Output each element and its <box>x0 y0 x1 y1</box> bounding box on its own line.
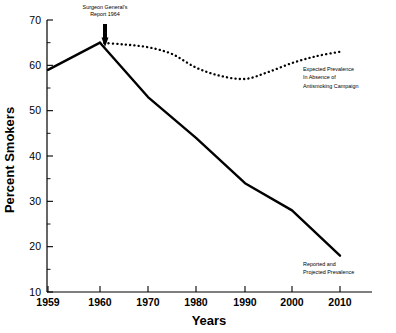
y-tick-label-30: 30 <box>29 195 41 207</box>
chart-container: 10203040506070 1959196019701980199020002… <box>0 0 396 333</box>
y-tick-label-40: 40 <box>29 150 41 162</box>
y-tick-label-50: 50 <box>29 104 41 116</box>
y-tick-label-60: 60 <box>29 59 41 71</box>
annotation-line: Antismoking Campaign <box>303 83 358 89</box>
annotation-line: Report 1964 <box>90 11 120 17</box>
x-tick-label-1959: 1959 <box>36 296 60 308</box>
x-tick-label-1970: 1970 <box>136 296 160 308</box>
y-tick-label-70: 70 <box>29 14 41 26</box>
x-tick-label-2010: 2010 <box>328 296 352 308</box>
annotation-line: Projected Prevalence <box>303 269 354 275</box>
x-tick-label-1960: 1960 <box>88 296 112 308</box>
smoking-prevalence-line-chart: 10203040506070 1959196019701980199020002… <box>0 0 396 333</box>
annotation-line: In Absence of <box>303 74 336 80</box>
y-tick-label-20: 20 <box>29 240 41 252</box>
annotation-line: Surgeon General's <box>83 4 128 10</box>
y-axis-title: Percent Smokers <box>2 107 17 213</box>
chart-background <box>0 0 396 333</box>
x-tick-label-1980: 1980 <box>184 296 208 308</box>
annotation-line: Reported and <box>303 261 336 267</box>
x-tick-label-1990: 1990 <box>233 296 257 308</box>
x-axis-title: Years <box>192 313 227 328</box>
annotation-line: Expected Prevalence <box>303 66 354 72</box>
x-tick-label-2000: 2000 <box>280 296 304 308</box>
